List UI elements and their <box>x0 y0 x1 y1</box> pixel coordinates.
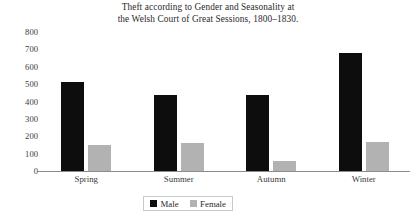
bar-winter-female <box>366 142 389 171</box>
y-axis-tick-700: 700 <box>25 44 38 54</box>
chart-legend: MaleFemale <box>143 196 233 211</box>
y-axis-tick-100: 100 <box>25 149 38 159</box>
y-axis-tick-300: 300 <box>25 114 38 124</box>
x-axis-label-spring: Spring <box>40 174 133 184</box>
bar-autumn-male <box>246 95 269 171</box>
x-axis-label-summer: Summer <box>133 174 226 184</box>
legend-item-female[interactable]: Female <box>190 199 226 209</box>
chart-figure: Theft according to Gender and Seasonalit… <box>0 0 416 220</box>
x-axis-label-winter: Winter <box>318 174 411 184</box>
bar-summer-male <box>154 95 177 171</box>
y-axis-tick-500: 500 <box>25 79 38 89</box>
legend-item-male[interactable]: Male <box>150 199 179 209</box>
bar-autumn-female <box>273 161 296 171</box>
legend-label-male: Male <box>161 199 179 209</box>
y-axis-tick-600: 600 <box>25 62 38 72</box>
plot-area: 8007006005004003002001000 SpringSummerAu… <box>0 0 416 220</box>
bar-summer-female <box>181 143 204 171</box>
legend-swatch-male-icon <box>150 200 157 207</box>
bar-spring-male <box>61 82 84 171</box>
bar-winter-male <box>339 53 362 171</box>
bars-layer <box>40 0 410 220</box>
x-axis-label-autumn: Autumn <box>225 174 318 184</box>
legend-swatch-female-icon <box>190 200 197 207</box>
y-axis-tick-400: 400 <box>25 97 38 107</box>
legend-label-female: Female <box>200 199 226 209</box>
y-axis-tick-200: 200 <box>25 131 38 141</box>
y-axis-tick-800: 800 <box>25 27 38 37</box>
bar-spring-female <box>88 145 111 171</box>
